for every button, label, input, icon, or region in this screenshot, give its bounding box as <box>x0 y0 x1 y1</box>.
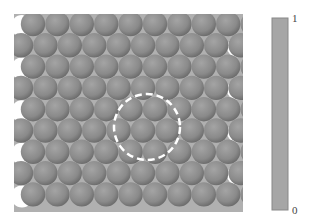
particle <box>180 33 204 57</box>
particle <box>180 118 204 142</box>
particle <box>143 182 167 206</box>
particle <box>33 33 57 57</box>
particle <box>94 140 118 164</box>
particle <box>33 161 57 185</box>
particle <box>192 140 216 164</box>
particle <box>204 161 228 185</box>
particle <box>167 182 191 206</box>
particle <box>240 12 264 36</box>
particle <box>45 140 69 164</box>
particle <box>228 118 252 142</box>
particle <box>143 97 167 121</box>
particle <box>45 54 69 78</box>
particle <box>118 182 142 206</box>
particle <box>94 182 118 206</box>
particle <box>143 54 167 78</box>
particle <box>180 76 204 100</box>
particle <box>106 76 130 100</box>
particle <box>131 161 155 185</box>
particle <box>9 76 33 100</box>
particle <box>131 33 155 57</box>
particle <box>192 12 216 36</box>
particle <box>45 182 69 206</box>
particle <box>204 76 228 100</box>
particle <box>118 140 142 164</box>
particle <box>21 54 45 78</box>
particle <box>45 12 69 36</box>
particle <box>118 54 142 78</box>
particle <box>167 12 191 36</box>
particle <box>21 140 45 164</box>
particle <box>180 161 204 185</box>
particle <box>240 54 264 78</box>
particle-lattice <box>9 12 265 207</box>
particle <box>82 161 106 185</box>
particle <box>167 140 191 164</box>
particle <box>82 33 106 57</box>
particle <box>70 97 94 121</box>
particle <box>70 12 94 36</box>
particle <box>70 182 94 206</box>
colorbar-min-label: 0 <box>292 204 298 216</box>
particle <box>131 76 155 100</box>
particle <box>228 161 252 185</box>
particle <box>58 33 82 57</box>
particle-figure: 1 0 <box>0 0 311 224</box>
particle <box>21 182 45 206</box>
particle <box>118 12 142 36</box>
particle <box>9 33 33 57</box>
colorbar <box>272 18 288 210</box>
particle <box>216 140 240 164</box>
particle <box>94 54 118 78</box>
particle <box>167 54 191 78</box>
particle <box>216 54 240 78</box>
particle <box>228 76 252 100</box>
particle <box>106 33 130 57</box>
particle <box>82 118 106 142</box>
particle <box>192 97 216 121</box>
particle <box>204 33 228 57</box>
particle <box>216 182 240 206</box>
particle <box>228 33 252 57</box>
particle <box>240 97 264 121</box>
particle <box>155 33 179 57</box>
particle <box>192 54 216 78</box>
colorbar-max-label: 1 <box>292 12 298 24</box>
particle <box>70 54 94 78</box>
particle <box>216 97 240 121</box>
particle <box>9 161 33 185</box>
particle <box>82 76 106 100</box>
particle <box>70 140 94 164</box>
particle <box>58 118 82 142</box>
particle <box>58 76 82 100</box>
particle <box>143 12 167 36</box>
particle <box>155 118 179 142</box>
particle <box>143 140 167 164</box>
particle <box>240 182 264 206</box>
particle <box>118 97 142 121</box>
particle <box>45 97 69 121</box>
particle <box>106 118 130 142</box>
particle <box>9 118 33 142</box>
particle <box>21 12 45 36</box>
particle <box>204 118 228 142</box>
particle <box>240 140 264 164</box>
particle <box>192 182 216 206</box>
particle <box>131 118 155 142</box>
particle <box>58 161 82 185</box>
particle <box>155 161 179 185</box>
particle <box>167 97 191 121</box>
particle <box>216 12 240 36</box>
particle <box>106 161 130 185</box>
particle <box>21 97 45 121</box>
particle <box>94 12 118 36</box>
particle <box>33 118 57 142</box>
particle <box>33 76 57 100</box>
